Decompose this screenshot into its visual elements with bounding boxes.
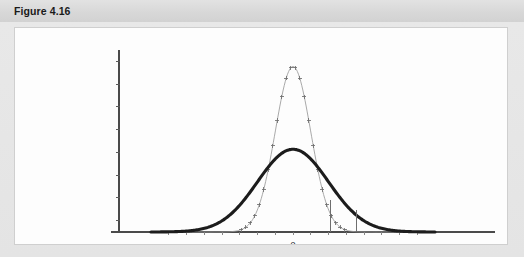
plot-panel: 0 [14,27,508,245]
figure-container: Figure 4.16 0 [0,0,524,257]
axis-labels-group: 0 [290,239,296,244]
curves-group [151,66,435,232]
axes-group [111,50,495,235]
annotations-group [330,200,356,232]
figure-header-bar: Figure 4.16 [0,0,524,22]
normal-distribution-plot: 0 [15,28,507,244]
x-axis-tick-label: 0 [290,239,296,244]
figure-title: Figure 4.16 [14,4,71,18]
wide-normal-curve [151,149,435,232]
